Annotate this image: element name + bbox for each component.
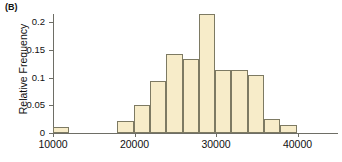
x-tick-label: 30000 [186, 139, 246, 150]
y-axis-title: Relative Frequency [17, 9, 29, 129]
histogram-bar [166, 54, 182, 133]
y-tick-mark [49, 78, 53, 79]
histogram-bar [248, 75, 264, 133]
y-tick-mark [49, 22, 53, 23]
x-tick-label: 40000 [268, 139, 328, 150]
x-tick-mark [216, 133, 217, 137]
histogram-bar [150, 81, 166, 133]
y-tick-label: 0.15 [5, 45, 45, 54]
y-tick-mark [49, 105, 53, 106]
histogram-bar [199, 14, 215, 133]
histogram-bar [117, 121, 134, 133]
y-tick-label: 0 [5, 128, 45, 137]
x-tick-label: 10000 [23, 139, 83, 150]
histogram-bar [231, 70, 247, 133]
histogram-bar [53, 127, 69, 133]
plot-area: Relative Frequency 00.050.10.150.2 10000… [0, 0, 342, 162]
x-tick-label: 20000 [105, 139, 165, 150]
y-axis-line [53, 14, 54, 134]
x-axis-line [53, 133, 338, 134]
histogram-bar [280, 125, 297, 133]
x-tick-mark [135, 133, 136, 137]
histogram-bar [134, 105, 150, 133]
histogram-figure: (B) Relative Frequency 00.050.10.150.2 1… [0, 0, 342, 162]
y-tick-mark [49, 50, 53, 51]
x-tick-mark [298, 133, 299, 137]
y-tick-label: 0.05 [5, 100, 45, 109]
y-tick-label: 0.1 [5, 73, 45, 82]
histogram-bar [215, 70, 231, 133]
x-tick-mark [53, 133, 54, 137]
histogram-bar [183, 59, 199, 133]
y-tick-label: 0.2 [5, 17, 45, 26]
histogram-bar [264, 119, 280, 133]
